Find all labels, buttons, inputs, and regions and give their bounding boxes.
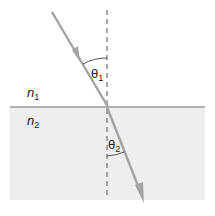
n1-label: n1	[27, 85, 39, 102]
theta1-label: θ1	[91, 66, 103, 83]
incident-ray	[52, 12, 108, 107]
theta1-arc	[83, 58, 107, 64]
refraction-diagram: θ1 θ2 n1 n2	[0, 0, 215, 216]
